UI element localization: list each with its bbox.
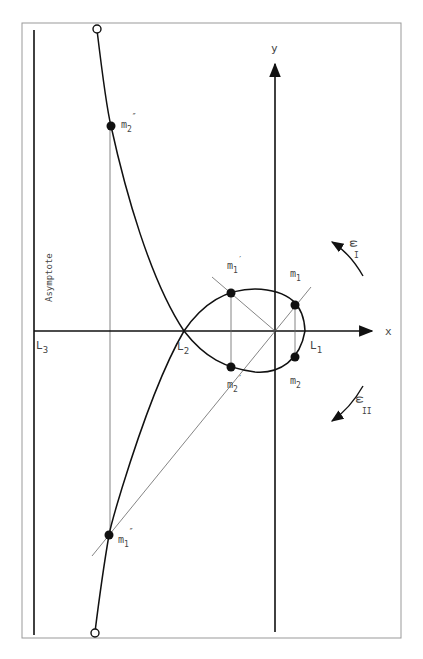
point-m1-double-prime (105, 531, 114, 540)
label-m1: m1 (290, 268, 301, 283)
rotation-arrow-omega-2 (332, 386, 363, 421)
open-endpoint-bottom (91, 629, 99, 637)
point-m1 (291, 301, 300, 310)
label-omega-2: ω (353, 396, 367, 403)
label-m2-prime: m2′ (227, 375, 243, 394)
label-m1-double-prime: m1″ (118, 528, 134, 549)
point-m2 (291, 353, 300, 362)
label-omega-1: ω (347, 240, 361, 247)
label-omega-2-sub: II (362, 407, 372, 416)
point-m2-double-prime (107, 122, 116, 131)
label-L3: L3 (36, 339, 48, 355)
label-m2-double-prime: m2″ (121, 113, 137, 134)
open-endpoint-top (93, 25, 101, 33)
label-L2: L2 (177, 340, 189, 356)
label-m2: m2 (290, 375, 301, 390)
label-omega-1-sub: I (354, 251, 359, 260)
diagonal-line-m1 (92, 287, 311, 556)
diagonal-line-m1-prime (212, 277, 275, 331)
point-m1-prime (227, 289, 236, 298)
diagram-canvas: x y Asymptote L3 L2 L1 m1 m2 m1′ m2′ m1″… (0, 0, 423, 659)
asymptote-label: Asymptote (44, 253, 54, 302)
label-L1: L1 (310, 339, 322, 355)
point-m2-prime (227, 363, 236, 372)
y-axis-label: y (271, 42, 278, 55)
x-axis-label: x (385, 325, 392, 338)
label-m1-prime: m1′ (227, 256, 243, 275)
